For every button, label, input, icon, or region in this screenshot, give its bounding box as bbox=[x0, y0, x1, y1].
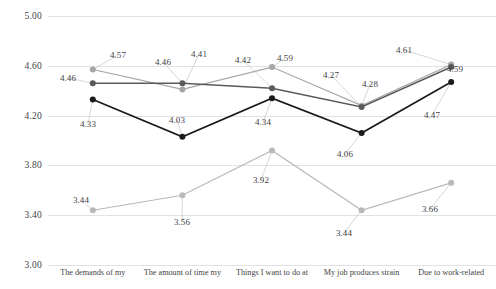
x-axis-category-label: Things I want to do at bbox=[227, 268, 317, 289]
data-point-marker bbox=[90, 207, 96, 213]
data-point-marker bbox=[179, 80, 185, 86]
data-label: 4.28 bbox=[362, 79, 378, 89]
data-point-marker bbox=[359, 207, 365, 213]
data-label: 4.59 bbox=[447, 64, 463, 74]
data-point-marker bbox=[269, 85, 275, 91]
line-chart: 5.004.604.203.803.403.00 4.574.414.594.2… bbox=[0, 0, 496, 289]
data-label: 3.44 bbox=[336, 228, 352, 238]
data-label: 3.92 bbox=[253, 175, 269, 185]
data-label: 4.59 bbox=[277, 53, 293, 63]
x-axis-category-label: The demands of my bbox=[48, 268, 138, 289]
x-axis-category-label: The amount of time my bbox=[138, 268, 228, 289]
data-label: 4.27 bbox=[323, 70, 339, 80]
data-point-marker bbox=[90, 67, 96, 73]
data-label: 4.03 bbox=[169, 115, 185, 125]
data-point-marker bbox=[90, 80, 96, 86]
series-svg bbox=[0, 0, 496, 289]
data-label: 4.47 bbox=[424, 110, 440, 120]
x-axis-category-label: Due to work-related bbox=[406, 268, 496, 289]
data-point-marker bbox=[90, 96, 96, 102]
data-point-marker bbox=[269, 95, 275, 101]
data-label: 4.06 bbox=[337, 149, 353, 159]
data-label: 4.41 bbox=[191, 49, 207, 59]
data-label: 3.56 bbox=[174, 217, 190, 227]
data-point-marker bbox=[359, 130, 365, 136]
data-point-marker bbox=[179, 192, 185, 198]
data-label: 4.42 bbox=[235, 55, 251, 65]
x-axis-category-label: My job produces strain bbox=[317, 268, 407, 289]
x-axis-category-labels: The demands of myThe amount of time myTh… bbox=[48, 268, 496, 289]
data-label: 4.34 bbox=[255, 117, 271, 127]
data-point-marker bbox=[269, 64, 275, 70]
data-point-marker bbox=[359, 104, 365, 110]
data-label: 4.33 bbox=[80, 119, 96, 129]
data-label: 4.46 bbox=[60, 73, 76, 83]
data-label: 4.57 bbox=[110, 50, 126, 60]
data-label: 4.61 bbox=[396, 45, 412, 55]
plot-area bbox=[0, 0, 496, 289]
data-point-marker bbox=[448, 79, 454, 85]
series-line-series-bottom-light bbox=[93, 150, 451, 210]
data-label: 3.66 bbox=[422, 204, 438, 214]
data-point-marker bbox=[269, 147, 275, 153]
data-label: 4.46 bbox=[155, 57, 171, 67]
data-label: 3.44 bbox=[73, 195, 89, 205]
data-point-marker bbox=[448, 180, 454, 186]
data-point-marker bbox=[179, 86, 185, 92]
data-point-marker bbox=[179, 134, 185, 140]
